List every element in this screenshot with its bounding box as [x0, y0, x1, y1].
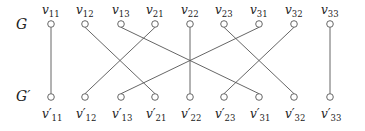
node-label-v11p: v′11	[42, 107, 62, 123]
node-label-v12p: v′12	[76, 107, 96, 123]
node-label-v23: v23	[215, 3, 233, 19]
graph-label-g: G	[16, 16, 27, 32]
node-v13p	[118, 94, 125, 101]
node-label-v11: v11	[42, 3, 60, 19]
graph-label-g-prime: G′	[16, 88, 31, 104]
node-v21	[152, 21, 159, 28]
node-v23	[221, 21, 228, 28]
node-v32	[291, 21, 298, 28]
node-v13	[118, 21, 125, 28]
node-label-v21: v21	[146, 3, 164, 19]
node-v23p	[221, 94, 228, 101]
node-v31p	[256, 94, 263, 101]
node-label-v31: v31	[250, 3, 268, 19]
node-v12p	[82, 94, 89, 101]
node-v31	[256, 21, 263, 28]
node-label-v32p: v′32	[285, 107, 305, 123]
node-label-v22: v22	[181, 3, 199, 19]
node-label-v21p: v′21	[146, 107, 166, 123]
node-v32p	[291, 94, 298, 101]
node-v22p	[187, 94, 194, 101]
node-v21p	[152, 94, 159, 101]
node-v33p	[327, 94, 334, 101]
node-label-v33: v33	[321, 3, 339, 19]
edges-group	[51, 27, 330, 93]
graph-isomorphism-diagram: G G′ v11v12v13v21v22v23v31v32v33v′11v′12…	[0, 0, 365, 131]
node-v33	[327, 21, 334, 28]
node-v11	[48, 21, 55, 28]
node-label-v13p: v′13	[112, 107, 132, 123]
node-label-v31p: v′31	[250, 107, 270, 123]
node-v11p	[48, 94, 55, 101]
node-label-v12: v12	[76, 3, 94, 19]
node-label-v33p: v′33	[321, 107, 341, 123]
node-v12	[82, 21, 89, 28]
node-label-v23p: v′23	[215, 107, 235, 123]
node-label-v32: v32	[285, 3, 303, 19]
node-v22	[187, 21, 194, 28]
node-label-v13: v13	[112, 3, 130, 19]
node-label-v22p: v′22	[181, 107, 201, 123]
